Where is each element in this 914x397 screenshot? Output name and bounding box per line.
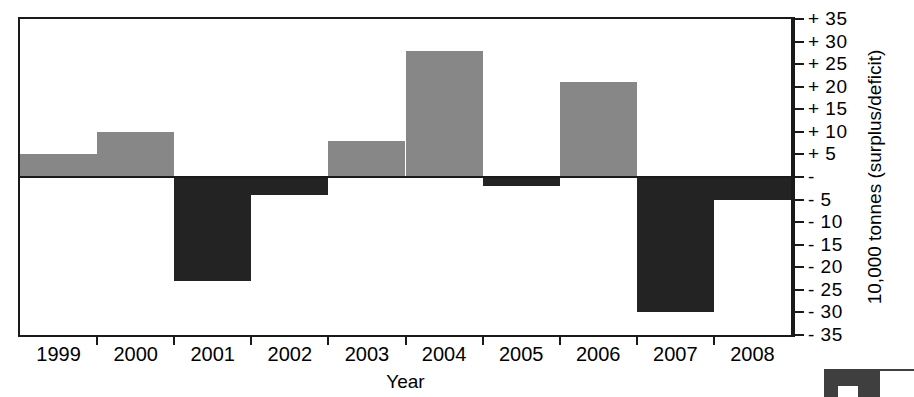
chart-figure: + 35+ 30+ 25+ 20+ 15+ 10+ 5-- 5- 10- 15-…	[0, 0, 914, 397]
corner-graphic-notch	[838, 386, 858, 397]
bar-2005[interactable]	[483, 177, 560, 186]
y-tick-35	[793, 18, 804, 20]
x-tick-label-2006: 2006	[560, 343, 637, 365]
y-tick-label-10: + 10	[808, 122, 848, 141]
y-axis-title: 10,000 tonnes (surplus/deficit)	[862, 17, 888, 337]
plot-frame	[18, 17, 793, 337]
bar-2008[interactable]	[714, 177, 791, 200]
corner-graphic-panel	[880, 371, 914, 397]
y-tick-label--30: - 30	[808, 302, 843, 321]
bar-2003[interactable]	[328, 141, 405, 177]
zero-baseline	[20, 176, 791, 178]
y-tick-label--35: - 35	[808, 325, 843, 344]
x-tick-label-2000: 2000	[97, 343, 174, 365]
x-tick-label-2007: 2007	[637, 343, 714, 365]
x-tick-label-2004: 2004	[406, 343, 483, 365]
y-tick-label-35: + 35	[808, 9, 848, 28]
bar-2000[interactable]	[97, 132, 174, 177]
x-axis-title-text: Year	[18, 371, 793, 393]
y-tick--10	[793, 221, 804, 223]
y-tick-label-15: + 15	[808, 99, 848, 118]
y-tick-label--5: - 5	[808, 190, 832, 209]
y-axis-title-text: 10,000 tonnes (surplus/deficit)	[865, 50, 885, 305]
y-tick-label-25: + 25	[808, 54, 848, 73]
bar-2006[interactable]	[560, 82, 637, 177]
corner-graphic	[824, 369, 914, 397]
y-tick-25	[793, 63, 804, 65]
y-tick-label--15: - 15	[808, 235, 843, 254]
bar-2001[interactable]	[174, 177, 251, 281]
y-tick--20	[793, 266, 804, 268]
y-tick-15	[793, 108, 804, 110]
y-tick-label--25: - 25	[808, 280, 843, 299]
x-tick-label-2001: 2001	[174, 343, 251, 365]
y-tick--25	[793, 289, 804, 291]
y-tick-label-30: + 30	[808, 32, 848, 51]
bar-2007[interactable]	[637, 177, 714, 312]
y-tick--15	[793, 244, 804, 246]
bar-2002[interactable]	[251, 177, 328, 195]
y-tick-5	[793, 153, 804, 155]
bar-1999[interactable]	[20, 154, 97, 177]
x-tick-label-2002: 2002	[251, 343, 328, 365]
y-tick-label-20: + 20	[808, 77, 848, 96]
plot-area	[20, 19, 791, 335]
x-tick-label-2003: 2003	[328, 343, 405, 365]
x-tick-label-2008: 2008	[714, 343, 791, 365]
y-tick-label--20: - 20	[808, 257, 843, 276]
y-tick-20	[793, 86, 804, 88]
x-tick-label-1999: 1999	[20, 343, 97, 365]
bar-2004[interactable]	[406, 51, 483, 177]
y-tick--5	[793, 199, 804, 201]
y-tick-label-5: + 5	[808, 144, 836, 163]
y-tick-label--10: - 10	[808, 212, 843, 231]
y-tick-label-0: -	[808, 167, 815, 186]
y-tick-10	[793, 131, 804, 133]
y-tick--30	[793, 311, 804, 313]
y-tick-30	[793, 41, 804, 43]
x-tick-label-2005: 2005	[483, 343, 560, 365]
y-tick--35	[793, 334, 804, 336]
y-tick-0	[793, 176, 804, 178]
